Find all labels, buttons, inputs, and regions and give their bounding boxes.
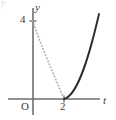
plot-canvas [0, 0, 116, 120]
y-axis-label: y [35, 2, 40, 13]
parabola-dashed-branch [33, 21, 64, 99]
origin-label: O [21, 101, 29, 112]
t-axis-label: t [103, 95, 106, 106]
y-tick-label-4: 4 [20, 14, 26, 25]
t-tick-label-2: 2 [60, 101, 66, 112]
parabola-figure: y t 4 2 O [0, 0, 116, 120]
parabola-solid-branch [64, 14, 99, 99]
